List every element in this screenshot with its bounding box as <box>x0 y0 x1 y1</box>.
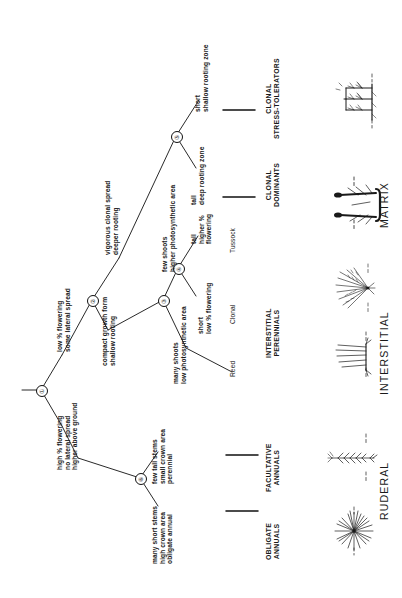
sketch-clonal-stress-tolerator <box>332 72 384 130</box>
terminal-type-clonal: Clonal <box>229 305 237 324</box>
branch-label-tall-deep-rooting: tall deep rooting zone <box>190 147 205 205</box>
branch-label-vigorous-clonal: vigorous clonal spread deeper rooting <box>104 181 119 255</box>
branch-label-high-flowering: high % flowering no lateral spread highe… <box>56 403 79 470</box>
category-interstitial-perennials: INTERSTITIAL PERENNIALS <box>265 308 281 358</box>
branch-label-short-shallow-rooting: short shallow rooting zone <box>194 44 209 112</box>
category-obligate-annuals: OBLIGATE ANNUALS <box>265 523 281 560</box>
terminal-type-reed: Reed <box>229 361 237 377</box>
sketch-facultative-annual-stem <box>326 432 382 484</box>
category-facultative-annuals: FACULTATIVE ANNUALS <box>265 443 281 492</box>
terminal-type-tussock: Tussock <box>229 228 237 253</box>
node-2: ② <box>87 295 99 307</box>
branch-label-low-flowering: low % flowering some lateral spread <box>56 288 71 352</box>
node-5-glyph: ⑤ <box>174 135 180 140</box>
node-2-glyph: ② <box>90 299 96 304</box>
category-clonal-stress-tolerators: CLONAL STRESS-TOLERATORS <box>265 58 281 139</box>
node-4-glyph: ④ <box>176 267 182 272</box>
branch-label-many-shoots: many shoots low photosynthetic area <box>172 306 187 384</box>
node-1-glyph: ① <box>39 389 45 394</box>
sketch-reed-shoots <box>330 330 380 380</box>
node-5: ⑤ <box>171 131 183 143</box>
sketch-obligate-annual-rosette <box>328 505 380 557</box>
diagram-canvas: ① ② ③ ④ ⑤ ⑥ low % flowering some lateral… <box>0 0 402 598</box>
branch-label-short-low-flowering: short low % flowering <box>197 283 212 334</box>
branch-label-tall-higher-flowering: tall higher % flowering <box>190 214 213 244</box>
node-6-glyph: ⑥ <box>138 477 144 482</box>
node-1: ① <box>36 385 48 397</box>
branch-label-few-tall-stems: few tall stems small crown area perennia… <box>151 429 174 484</box>
node-3: ③ <box>158 295 170 307</box>
category-clonal-dominants: CLONAL DOMINANTS <box>265 163 281 207</box>
node-3-glyph: ③ <box>161 299 167 304</box>
sketch-tussock-fan <box>330 262 382 314</box>
branch-label-few-shoots: few shoots higher photosynthetic area <box>161 185 176 272</box>
sketch-clonal-dominant <box>326 175 384 233</box>
branch-label-compact-growth: compact growth form shallow rooting <box>101 297 116 366</box>
node-6: ⑥ <box>135 473 147 485</box>
branch-label-many-short-stems: many short stems high crown area obligat… <box>151 506 174 564</box>
